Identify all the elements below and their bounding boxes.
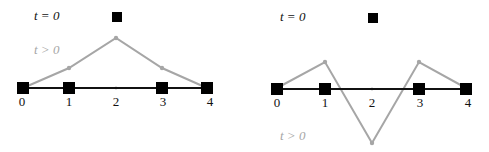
- left-initial-node-3: [156, 82, 168, 94]
- right-initial-node-2: [368, 13, 378, 23]
- right-tick-1: 1: [322, 95, 329, 110]
- right-tick-2: 2: [369, 95, 376, 110]
- left-initial-node-0: [17, 82, 29, 94]
- left-tick-1: 1: [66, 94, 73, 109]
- right-node-2-mark: [371, 88, 373, 90]
- right-initial-node-1: [319, 83, 331, 95]
- right-later-point: [417, 60, 421, 64]
- left-initial-node-1: [63, 82, 75, 94]
- right-tick-0: 0: [274, 95, 281, 110]
- left-label-tpos: t > 0: [34, 42, 60, 57]
- right-label-t0: t = 0: [280, 9, 306, 24]
- left-node-2-mark: [115, 87, 117, 89]
- right-initial-node-0: [271, 83, 283, 95]
- left-later-point: [114, 36, 118, 40]
- left-initial-node-4: [201, 82, 213, 94]
- left-later-point: [67, 66, 71, 70]
- right-tick-3: 3: [417, 95, 424, 110]
- left-panel: t = 0 t > 0 0 1 2 3 4: [17, 8, 214, 109]
- right-later-point: [370, 141, 374, 145]
- left-label-t0: t = 0: [34, 8, 60, 23]
- left-later-point: [160, 66, 164, 70]
- right-tick-4: 4: [465, 95, 472, 110]
- right-panel: t = 0 t > 0 0 1 2 3 4: [271, 9, 472, 145]
- left-tick-4: 4: [207, 94, 214, 109]
- left-tick-2: 2: [113, 94, 120, 109]
- right-later-point: [323, 60, 327, 64]
- left-initial-node-2: [112, 12, 122, 22]
- right-initial-node-3: [413, 83, 425, 95]
- left-tick-0: 0: [19, 94, 26, 109]
- left-tick-3: 3: [160, 94, 167, 109]
- right-initial-node-4: [460, 83, 472, 95]
- diagram-canvas: t = 0 t > 0 0 1 2 3 4 t = 0 t > 0: [0, 0, 489, 152]
- right-label-tpos: t > 0: [280, 128, 306, 143]
